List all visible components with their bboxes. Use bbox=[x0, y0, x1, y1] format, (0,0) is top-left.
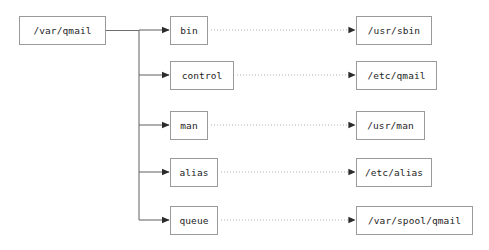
node-target-control[interactable]: /etc/qmail bbox=[356, 61, 437, 90]
node-source-man-label: man bbox=[180, 120, 197, 130]
node-target-alias[interactable]: /etc/alias bbox=[356, 158, 432, 187]
node-source-control-label: control bbox=[182, 70, 223, 80]
node-source-control[interactable]: control bbox=[170, 61, 234, 90]
node-source-queue-label: queue bbox=[179, 215, 208, 225]
node-root-var-qmail-label: /var/qmail bbox=[33, 25, 91, 35]
node-target-bin[interactable]: /usr/sbin bbox=[356, 16, 432, 45]
dotted-edge-group bbox=[211, 30, 355, 220]
node-target-bin-label: /usr/sbin bbox=[368, 25, 420, 35]
node-root-var-qmail[interactable]: /var/qmail bbox=[19, 16, 106, 45]
node-target-man-label: /usr/man bbox=[367, 120, 414, 130]
node-source-alias-label: alias bbox=[179, 167, 208, 177]
solid-edge-group bbox=[106, 30, 169, 220]
node-source-queue[interactable]: queue bbox=[170, 206, 218, 235]
node-source-alias[interactable]: alias bbox=[170, 158, 218, 187]
node-target-control-label: /etc/qmail bbox=[367, 70, 425, 80]
diagram-canvas: /var/qmailbin/usr/sbincontrol/etc/qmailm… bbox=[0, 0, 489, 250]
node-source-man[interactable]: man bbox=[170, 111, 208, 140]
node-source-bin-label: bin bbox=[180, 25, 197, 35]
node-target-queue-label: /var/spool/qmail bbox=[368, 215, 461, 225]
node-target-alias-label: /etc/alias bbox=[365, 167, 423, 177]
node-target-queue[interactable]: /var/spool/qmail bbox=[356, 206, 473, 235]
trunk-spine bbox=[106, 31, 139, 221]
node-source-bin[interactable]: bin bbox=[170, 16, 208, 45]
node-target-man[interactable]: /usr/man bbox=[356, 111, 425, 140]
